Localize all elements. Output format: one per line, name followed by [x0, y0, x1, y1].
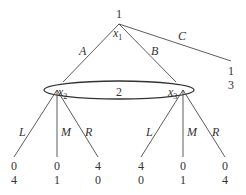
payoff-right-M-p1: 0 [180, 159, 186, 173]
payoff-left-L-p2: 4 [11, 173, 17, 187]
payoff-right-L-p2: 0 [138, 173, 144, 187]
payoff-left-R-p2: 0 [95, 173, 101, 187]
terminal-C-payoff-2: 3 [228, 78, 234, 92]
right-action-L-label: L [145, 125, 153, 139]
action-C-label: C [178, 29, 187, 43]
node-x2-label: x2 [57, 85, 67, 101]
payoff-right-R-p2: 4 [222, 173, 228, 187]
edge-A [63, 24, 119, 82]
terminal-C-payoff-1: 1 [228, 64, 234, 78]
right-action-R-label: R [211, 125, 220, 139]
payoff-left-L-p1: 0 [11, 159, 17, 173]
left-action-R-label: R [84, 125, 93, 139]
payoff-left-M-p1: 0 [54, 159, 60, 173]
game-tree: 1 x1 A B C 1 3 x2 2 x3 L M R L M R 0 4 0… [0, 0, 246, 195]
action-A-label: A [78, 44, 87, 58]
action-B-label: B [151, 44, 159, 58]
left-action-L-label: L [18, 125, 26, 139]
payoff-right-L-p1: 4 [138, 159, 144, 173]
payoff-left-R-p1: 4 [95, 159, 101, 173]
edge-C [119, 24, 231, 61]
node-x3-label: x3 [167, 85, 177, 101]
root-player-label: 1 [116, 7, 122, 21]
root-node-label: x1 [112, 26, 122, 42]
payoff-right-M-p2: 1 [180, 173, 186, 187]
info-set-player-label: 2 [116, 85, 122, 99]
left-action-M-label: M [60, 125, 72, 139]
edge-left-L [14, 90, 57, 157]
right-action-M-label: M [186, 125, 198, 139]
edge-B [119, 24, 176, 82]
payoff-right-R-p1: 0 [222, 159, 228, 173]
edge-right-R [183, 90, 225, 157]
payoff-left-M-p2: 1 [54, 173, 60, 187]
